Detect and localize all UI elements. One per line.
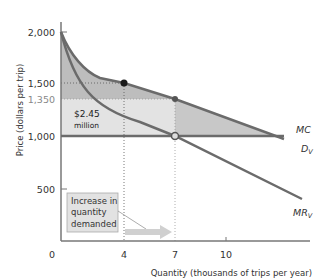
dv-label: DV — [301, 143, 313, 156]
mc-label: MC — [296, 124, 311, 135]
x-tick-label-7: 7 — [172, 249, 178, 260]
x-tick-label-0: 0 — [49, 249, 55, 260]
x-tick-label-4: 4 — [121, 249, 127, 260]
area-unit-label: million — [74, 121, 99, 130]
area-value-label: $2.45 — [74, 109, 100, 119]
callout-leader — [118, 211, 146, 229]
consumer-surplus-area — [61, 32, 175, 99]
mrv-label: MRV — [293, 207, 313, 220]
y-tick-label-500: 500 — [37, 184, 55, 195]
monopoly-point — [121, 80, 128, 87]
y-tick-label-1350: 1,350 — [28, 94, 55, 105]
chart: 2,000 1,500 1,350 1,000 500 Price (dolla… — [0, 0, 326, 280]
callout-line-2: quantity — [71, 207, 106, 217]
x-tick-label-10: 10 — [220, 249, 232, 260]
y-tick-label-2000: 2,000 — [28, 27, 55, 38]
demand-point-q7 — [172, 96, 178, 102]
x-axis-title: Quantity (thousands of trips per year) — [151, 268, 312, 278]
y-tick-label-1000: 1,000 — [28, 131, 55, 142]
y-axis-title: Price (dollars per trip) — [15, 64, 25, 157]
y-tick-label-1500: 1,500 — [28, 78, 55, 89]
callout-line-1: Increase in — [71, 196, 117, 206]
callout-line-3: demanded — [71, 219, 117, 229]
mr-mc-point — [172, 133, 179, 140]
increase-arrow — [125, 225, 172, 239]
